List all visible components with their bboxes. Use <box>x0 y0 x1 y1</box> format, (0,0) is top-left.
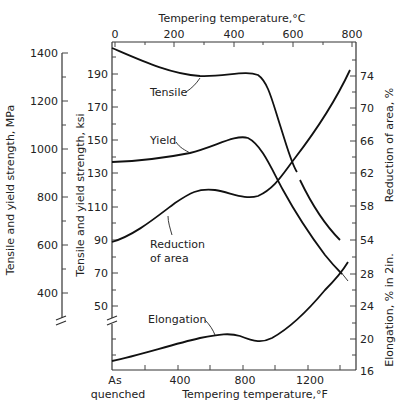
ksi-tick-170: 170 <box>87 101 108 114</box>
ksi-axis-title: Tensile and yield strength, ksi <box>74 113 87 277</box>
elong-axis-title: Elongation, % in 2in. <box>383 253 396 367</box>
ra-tick-66: 66 <box>360 135 374 148</box>
reduction-arrow <box>168 216 172 235</box>
top-ticks <box>115 42 352 47</box>
mpa-tick-400: 400 <box>37 287 58 300</box>
bottom-tick-800: 800 <box>235 374 256 387</box>
break-mark-ra <box>340 271 348 281</box>
ksi-tick-70: 70 <box>94 267 108 280</box>
ra-tick-54: 54 <box>360 234 374 247</box>
reduction-label-line1: Reduction <box>150 238 205 251</box>
bottom-ticks <box>145 365 340 370</box>
mpa-axis <box>56 53 68 325</box>
ksi-ticks <box>112 57 118 355</box>
bottom-tick-as: As <box>108 374 122 387</box>
tensile-curve-tail <box>300 180 340 240</box>
ksi-tick-130: 130 <box>87 167 108 180</box>
mpa-tick-600: 600 <box>37 239 58 252</box>
mpa-tick-1200: 1200 <box>30 95 58 108</box>
ra-axis-title: Reduction of area, % <box>383 88 396 203</box>
yield-curve <box>112 137 342 274</box>
top-tick-800: 800 <box>342 28 363 41</box>
ksi-tick-90: 90 <box>94 234 108 247</box>
reduction-label-line2: of area <box>150 252 189 265</box>
ksi-tick-150: 150 <box>87 134 108 147</box>
elongation-label: Elongation <box>148 313 207 326</box>
tempering-properties-chart: Tempering temperature,°C 0 200 400 600 8… <box>0 0 404 409</box>
ksi-tick-110: 110 <box>87 201 108 214</box>
plot-frame <box>107 42 356 370</box>
ksi-tick-50: 50 <box>94 300 108 313</box>
bottom-tick-1200: 1200 <box>296 374 324 387</box>
mpa-tick-1400: 1400 <box>30 47 58 60</box>
elongation-curve <box>112 262 348 361</box>
ra-tick-70: 70 <box>360 102 374 115</box>
top-tick-200: 200 <box>164 28 185 41</box>
mpa-tick-1000: 1000 <box>30 143 58 156</box>
yield-arrow <box>176 142 190 153</box>
right-ticks <box>350 60 356 355</box>
top-axis-title: Tempering temperature,°C <box>158 12 306 25</box>
el-tick-20: 20 <box>360 333 374 346</box>
el-tick-16: 16 <box>360 365 374 378</box>
el-tick-28: 28 <box>360 268 374 281</box>
yield-label: Yield <box>149 134 176 147</box>
top-tick-0: 0 <box>112 28 119 41</box>
mpa-axis-title: Tensile and yield strength, MPa <box>4 105 17 276</box>
reduction-of-area-curve <box>112 70 350 242</box>
el-tick-24: 24 <box>360 300 374 313</box>
ra-tick-58: 58 <box>360 200 374 213</box>
top-tick-400: 400 <box>224 28 245 41</box>
bottom-axis-title: Tempering temperature,°F <box>181 388 328 401</box>
ra-tick-62: 62 <box>360 167 374 180</box>
bottom-tick-400: 400 <box>170 374 191 387</box>
bottom-tick-quenched: quenched <box>91 388 145 401</box>
tensile-label: Tensile <box>149 86 187 99</box>
mpa-tick-800: 800 <box>37 191 58 204</box>
ksi-tick-190: 190 <box>87 68 108 81</box>
ra-tick-74: 74 <box>360 70 374 83</box>
tensile-arrow <box>186 78 200 92</box>
top-tick-600: 600 <box>283 28 304 41</box>
tensile-curve <box>112 48 297 172</box>
